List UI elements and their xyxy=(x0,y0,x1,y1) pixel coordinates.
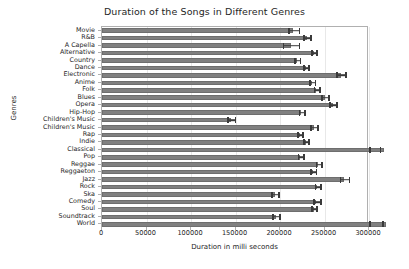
error-bar-cap xyxy=(316,162,318,168)
bar-chart-figure: Duration of the Songs in Different Genre… xyxy=(0,0,409,269)
error-bar xyxy=(288,30,299,32)
x-axis-labels: 050000100000150000200000250000300000 xyxy=(101,229,368,241)
y-axis-tick-label: A Capella xyxy=(65,41,95,47)
bar xyxy=(102,43,291,48)
y-axis-tick-label: Opera xyxy=(75,101,95,107)
bar xyxy=(102,36,307,41)
bar-series xyxy=(102,27,367,226)
y-axis-tick-label: Rock xyxy=(80,183,95,189)
x-axis-tick-label: 250000 xyxy=(311,229,336,237)
error-bar-cap xyxy=(320,184,322,190)
error-bar-cap xyxy=(299,28,301,34)
y-axis-tick-label: R&B xyxy=(81,34,95,40)
bar xyxy=(102,215,276,220)
x-axis-tick-label: 100000 xyxy=(177,229,202,237)
error-bar-cap xyxy=(310,125,312,131)
x-axis-tick xyxy=(279,227,280,230)
error-bar-cap xyxy=(316,169,318,175)
error-bar-cap xyxy=(303,65,305,71)
error-bar-cap xyxy=(309,80,311,86)
error-bar-cap xyxy=(345,72,347,78)
error-bar-cap xyxy=(297,132,299,138)
y-axis-tick-label: Reggaeton xyxy=(60,168,95,174)
error-bar-cap xyxy=(329,102,331,108)
y-axis-tick-label: Soundtrack xyxy=(59,213,95,219)
error-bar-cap xyxy=(283,43,285,49)
bar xyxy=(102,66,306,71)
y-axis-tick-label: World xyxy=(77,220,95,226)
y-axis-tick-label: Ska xyxy=(83,190,95,196)
y-axis-tick-label: Country xyxy=(70,56,95,62)
bar xyxy=(102,110,301,115)
x-axis-tick xyxy=(101,227,102,230)
error-bar-cap xyxy=(320,199,322,205)
bar xyxy=(102,207,314,212)
x-axis-tick-label: 200000 xyxy=(266,229,291,237)
error-bar-cap xyxy=(304,110,306,116)
error-bar-cap xyxy=(310,169,312,175)
y-axis-tick-label: Blues xyxy=(78,94,95,100)
y-axis-tick-label: Classical xyxy=(67,146,95,152)
error-bar-cap xyxy=(303,154,305,160)
plot-area xyxy=(101,26,368,227)
error-bar-cap xyxy=(315,80,317,86)
bar xyxy=(102,200,316,205)
y-axis-tick-label: Folk xyxy=(82,86,95,92)
error-bar-cap xyxy=(300,58,302,64)
error-bar-cap xyxy=(328,95,330,101)
bar xyxy=(102,140,306,145)
error-bar-cap xyxy=(349,177,351,183)
y-axis-tick-label: Indie xyxy=(79,138,95,144)
error-bar-cap xyxy=(380,147,382,153)
x-axis-tick xyxy=(324,227,325,230)
error-bar-cap xyxy=(369,147,371,153)
error-bar-cap xyxy=(314,87,316,93)
y-axis-tick-label: Dance xyxy=(75,64,95,70)
error-bar-cap xyxy=(303,35,305,41)
bar xyxy=(102,28,293,33)
y-axis-labels: MovieR&BA CapellaAlternativeCountryDance… xyxy=(0,26,99,227)
error-bar xyxy=(283,45,299,47)
y-axis-tick-label: Hip-Hop xyxy=(69,108,95,114)
y-axis-tick-label: Rap xyxy=(83,131,95,137)
y-axis-tick-label: Electronic xyxy=(63,71,95,77)
x-axis-tick xyxy=(146,227,147,230)
x-axis-tick-label: 300000 xyxy=(355,229,380,237)
error-bar-cap xyxy=(303,139,305,145)
error-bar-cap xyxy=(279,214,281,220)
error-bar-cap xyxy=(316,206,318,212)
x-axis-tick-label: 150000 xyxy=(222,229,247,237)
error-bar-cap xyxy=(308,65,310,71)
error-bar-cap xyxy=(298,154,300,160)
error-bar-cap xyxy=(336,102,338,108)
error-bar-cap xyxy=(382,221,384,227)
x-axis-title: Duration in milli seconds xyxy=(101,243,368,251)
y-axis-tick-label: Reggae xyxy=(71,161,95,167)
error-bar-cap xyxy=(311,50,313,56)
bar xyxy=(102,162,318,167)
error-bar-cap xyxy=(313,199,315,205)
y-axis-tick-label: Pop xyxy=(83,153,95,159)
bar xyxy=(102,95,325,100)
y-axis-tick-label: Children's Music xyxy=(43,123,95,129)
y-axis-tick-label: Jazz xyxy=(82,175,95,181)
bar xyxy=(102,58,297,63)
gridline xyxy=(369,27,370,226)
error-bar-cap xyxy=(302,132,304,138)
error-bar-cap xyxy=(308,139,310,145)
x-axis-tick xyxy=(235,227,236,230)
bar xyxy=(102,170,313,175)
error-bar-cap xyxy=(316,50,318,56)
bar xyxy=(102,192,275,197)
error-bar-cap xyxy=(336,72,338,78)
bar xyxy=(102,155,300,160)
bar xyxy=(102,103,333,108)
y-axis-tick-label: Anime xyxy=(75,79,95,85)
x-axis-tick xyxy=(190,227,191,230)
error-bar-cap xyxy=(294,58,296,64)
bar xyxy=(102,185,317,190)
error-bar-cap xyxy=(288,28,290,34)
error-bar-cap xyxy=(321,162,323,168)
bar xyxy=(102,222,386,227)
error-bar-cap xyxy=(311,206,313,212)
